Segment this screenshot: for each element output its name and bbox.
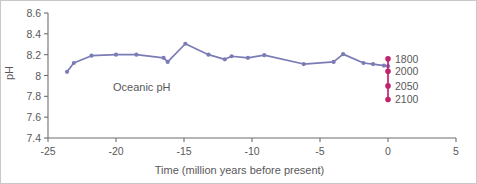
x-axis-label: Time (million years before present) xyxy=(1,164,477,176)
series-data-point xyxy=(382,64,386,68)
series-data-point xyxy=(162,56,166,60)
series-data-point xyxy=(72,61,76,65)
series-data-point xyxy=(206,53,210,57)
series-data-point xyxy=(65,70,69,74)
y-tick-label: 8.6 xyxy=(1,7,41,19)
series-data-point xyxy=(302,62,306,66)
x-tick-label: -10 xyxy=(244,145,259,157)
projection-marker-2100 xyxy=(385,97,391,103)
projection-label-2050: 2050 xyxy=(395,80,418,92)
series-data-point xyxy=(183,42,187,46)
x-tick-label: 0 xyxy=(385,145,391,157)
projection-marker-2000 xyxy=(385,69,391,75)
series-data-point xyxy=(341,52,345,56)
projection-label-1800: 1800 xyxy=(395,53,418,65)
series-data-point xyxy=(114,53,118,57)
series-data-point xyxy=(246,56,250,60)
y-tick-label: 7.6 xyxy=(1,111,41,123)
y-tick-label: 8.2 xyxy=(1,49,41,61)
series-data-point xyxy=(262,53,266,57)
y-tick-label: 8.4 xyxy=(1,28,41,40)
x-tick-label: -5 xyxy=(315,145,324,157)
series-data-point xyxy=(371,62,375,66)
series-annotation-oceanic-ph: Oceanic pH xyxy=(113,81,170,93)
x-tick-label: -20 xyxy=(108,145,123,157)
x-tick-label: -15 xyxy=(176,145,191,157)
series-data-point xyxy=(134,53,138,57)
projection-marker-1800 xyxy=(385,56,391,62)
series-line-oceanic-ph xyxy=(67,44,388,72)
y-tick-label: 7.8 xyxy=(1,90,41,102)
series-data-point xyxy=(361,61,365,65)
series-data-point xyxy=(230,54,234,58)
projection-label-2000: 2000 xyxy=(395,65,418,77)
series-data-point xyxy=(89,54,93,58)
y-tick-label: 8 xyxy=(1,70,41,82)
series-data-point xyxy=(223,57,227,61)
oceanic-ph-chart: pH Time (million years before present) O… xyxy=(0,0,477,184)
y-tick-label: 7.4 xyxy=(1,132,41,144)
projection-label-2100: 2100 xyxy=(395,93,418,105)
x-tick-label: 5 xyxy=(453,145,459,157)
projection-marker-2050 xyxy=(385,83,391,89)
series-data-point xyxy=(332,60,336,64)
series-data-point xyxy=(166,60,170,64)
x-tick-label: -25 xyxy=(40,145,55,157)
